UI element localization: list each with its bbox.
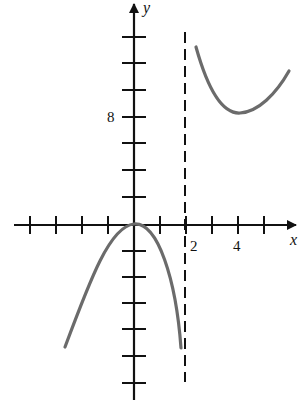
y-tick-label-8: 8 [107, 109, 115, 125]
x-tick-label-2: 2 [190, 238, 198, 254]
x-axis-label: x [289, 231, 297, 248]
x-axis [14, 216, 296, 234]
right-branch-curve [196, 47, 289, 113]
y-axis [122, 4, 146, 400]
x-tick-label-4: 4 [233, 238, 241, 254]
graph-canvas: y x 2 4 8 [0, 0, 302, 418]
y-axis-label: y [141, 0, 151, 17]
